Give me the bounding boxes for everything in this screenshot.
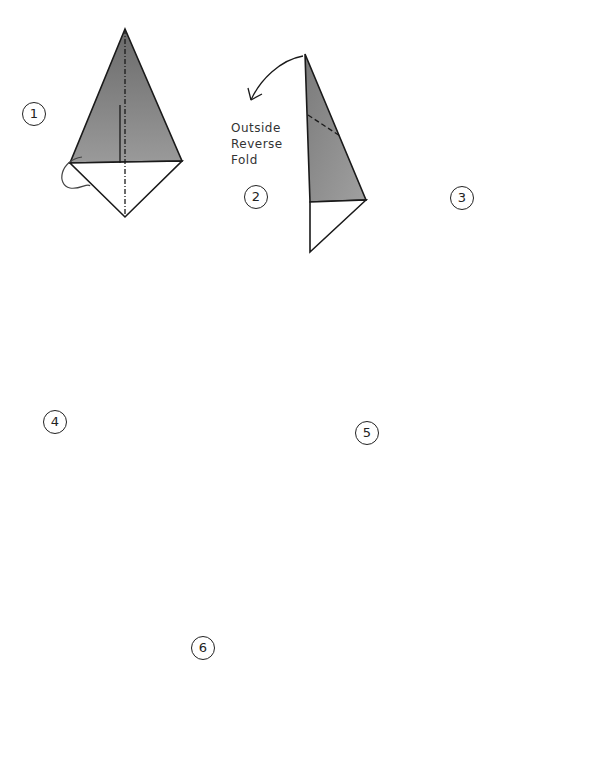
step-4-number: 4 (43, 410, 67, 434)
step-6-number: 6 (191, 636, 215, 660)
step-2-number: 2 (244, 185, 268, 209)
label-line-3: Fold (231, 152, 283, 168)
step-5-number: 5 (355, 421, 379, 445)
step-3-number: 3 (450, 186, 474, 210)
step-1-number: 1 (22, 102, 46, 126)
label-line-1: Outside (231, 120, 283, 136)
origami-diagram (0, 0, 615, 766)
label-line-2: Reverse (231, 136, 283, 152)
step-1-figure (62, 29, 182, 217)
outside-reverse-fold-label: Outside Reverse Fold (231, 120, 283, 168)
